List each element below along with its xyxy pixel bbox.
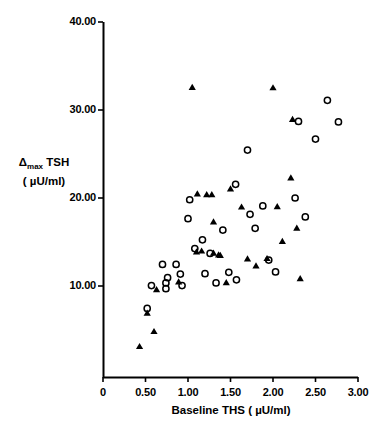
data-point-open-circle <box>185 216 191 222</box>
data-point-filled-triangle <box>208 191 215 197</box>
data-point-filled-triangle <box>244 255 251 261</box>
data-point-filled-triangle <box>194 190 201 196</box>
data-point-filled-triangle <box>287 174 294 180</box>
data-point-open-circle <box>220 227 226 233</box>
data-point-open-circle <box>292 195 298 201</box>
data-point-filled-triangle <box>293 225 300 231</box>
data-point-filled-triangle <box>223 279 230 285</box>
data-point-filled-triangle <box>189 84 196 90</box>
data-point-filled-triangle <box>210 218 217 224</box>
data-point-open-circle <box>159 261 165 267</box>
data-point-open-circle <box>173 261 179 267</box>
y-axis-title-rest: TSH <box>43 156 69 168</box>
data-point-filled-triangle <box>175 278 182 284</box>
x-axis-tick-label: 3.00 <box>328 386 380 398</box>
data-point-filled-triangle <box>136 343 143 349</box>
data-point-open-circle <box>252 225 258 231</box>
data-point-filled-triangle <box>269 84 276 90</box>
data-point-open-circle <box>177 271 183 277</box>
data-point-open-circle <box>247 211 253 217</box>
y-axis-tick-label: 30.00 <box>28 103 96 115</box>
y-axis-subscript: max <box>27 162 43 171</box>
data-point-filled-triangle <box>150 328 157 334</box>
data-point-open-circle <box>226 269 232 275</box>
data-point-filled-triangle <box>252 262 259 268</box>
y-axis-tick-label: 10.00 <box>28 279 96 291</box>
data-point-open-circle <box>312 136 318 142</box>
data-point-open-circle <box>233 277 239 283</box>
plot-canvas <box>0 0 380 433</box>
scatter-plot-figure: 10.0020.0030.0040.00 00.501.001.502.002.… <box>0 0 380 433</box>
y-axis-title: Δmax TSH ( µU/ml) <box>4 155 84 188</box>
y-axis-delta: Δ <box>19 156 27 168</box>
data-point-open-circle <box>260 203 266 209</box>
y-axis-tick-label: 40.00 <box>28 15 96 27</box>
data-point-open-circle <box>202 271 208 277</box>
data-point-filled-triangle <box>238 203 245 209</box>
data-point-open-circle <box>335 119 341 125</box>
data-point-open-circle <box>187 197 193 203</box>
axis-lines <box>103 22 358 378</box>
data-point-filled-triangle <box>274 203 281 209</box>
y-axis-ticks <box>98 22 103 286</box>
data-point-open-circle <box>199 237 205 243</box>
data-points-group <box>136 84 342 349</box>
data-point-open-circle <box>272 269 278 275</box>
data-point-open-circle <box>213 280 219 286</box>
y-axis-title-line2: ( µU/ml) <box>4 174 84 188</box>
y-axis-tick-label: 20.00 <box>28 191 96 203</box>
data-point-open-circle <box>244 147 250 153</box>
data-point-filled-triangle <box>289 116 296 122</box>
data-point-open-circle <box>148 282 154 288</box>
data-point-open-circle <box>324 97 330 103</box>
data-point-open-circle <box>302 214 308 220</box>
x-axis-title: Baseline THS ( µU/ml) <box>103 404 359 416</box>
data-point-filled-triangle <box>279 238 286 244</box>
y-axis-title-line1: Δmax TSH <box>4 155 84 174</box>
data-point-filled-triangle <box>263 255 270 261</box>
data-point-filled-triangle <box>198 247 205 253</box>
data-point-filled-triangle <box>297 275 304 281</box>
data-point-open-circle <box>233 181 239 187</box>
data-point-open-circle <box>295 118 301 124</box>
